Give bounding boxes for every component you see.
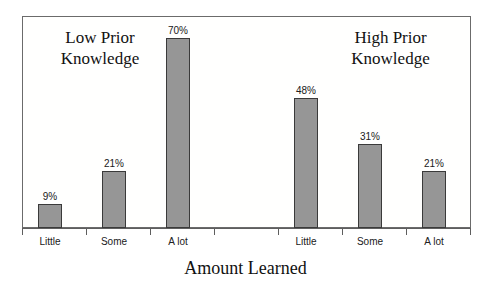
bar-slot: 48%: [278, 16, 334, 228]
bars-layer: 9% 21% 70% 48% 31% 21%: [22, 16, 471, 228]
bar-rect: [294, 98, 318, 228]
x-axis-tick: [406, 229, 407, 235]
x-axis-tick: [470, 229, 471, 235]
x-axis-line: [22, 228, 471, 229]
bar-slot: 21%: [86, 16, 142, 228]
bar-value-label: 48%: [296, 85, 316, 96]
bar-value-label: 21%: [424, 158, 444, 169]
bar-slot: 21%: [406, 16, 462, 228]
x-axis-tick: [22, 229, 23, 235]
x-axis-tick: [86, 229, 87, 235]
x-tick-label: Little: [278, 236, 334, 247]
bar-value-label: 31%: [360, 131, 380, 142]
bar-rect: [166, 38, 190, 228]
x-tick-label: Some: [342, 236, 398, 247]
bar-slot: 70%: [150, 16, 206, 228]
x-axis-tick: [214, 229, 215, 235]
bar-value-label: 70%: [168, 25, 188, 36]
bar-rect: [102, 171, 126, 228]
bar-rect: [38, 204, 62, 228]
x-axis-tick: [278, 229, 279, 235]
bar-rect: [358, 144, 382, 228]
x-tick-label: A lot: [406, 236, 462, 247]
x-tick-label: Little: [22, 236, 78, 247]
bar-slot-empty: [214, 16, 270, 228]
bar-slot: 31%: [342, 16, 398, 228]
x-axis-title: Amount Learned: [0, 258, 491, 279]
bar-rect: [422, 171, 446, 228]
bar-value-label: 21%: [104, 158, 124, 169]
x-axis-tick: [342, 229, 343, 235]
x-tick-label: A lot: [150, 236, 206, 247]
bar-value-label: 9%: [43, 191, 57, 202]
x-tick-label: Some: [86, 236, 142, 247]
bar-chart-figure: Low Prior Knowledge High Prior Knowledge…: [0, 0, 491, 290]
bar-slot: 9%: [22, 16, 78, 228]
x-axis-tick: [150, 229, 151, 235]
